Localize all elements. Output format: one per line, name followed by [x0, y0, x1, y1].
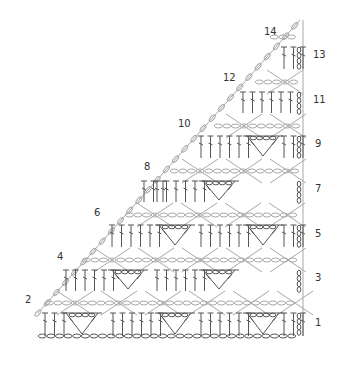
- turning-chain: [297, 103, 301, 109]
- chain-stitch: [235, 301, 243, 305]
- chain-stitch: [162, 225, 168, 229]
- chain-stitch: [143, 213, 151, 217]
- dc-bar: [206, 274, 210, 279]
- shell-leg: [219, 270, 235, 289]
- turning-chain: [297, 92, 301, 98]
- chain-stitch: [248, 169, 256, 173]
- chain-stitch: [134, 258, 142, 262]
- chain-stitch: [80, 301, 88, 305]
- chain-stitch: [278, 301, 286, 305]
- chain-stitch: [223, 124, 231, 128]
- chain-stitch: [243, 301, 251, 305]
- turning-chain: [297, 58, 301, 64]
- shell-leg: [219, 181, 235, 200]
- chain-stitch: [76, 313, 82, 317]
- turning-chain: [297, 98, 301, 104]
- shell-leg: [247, 225, 263, 245]
- chain-stitch: [206, 181, 212, 185]
- chain-stitch: [162, 313, 168, 317]
- chain-stitch: [125, 258, 133, 262]
- chain-stitch: [88, 301, 96, 305]
- chain-stitch: [160, 258, 168, 262]
- chain-stitch: [263, 136, 269, 140]
- chain-stitch: [193, 334, 201, 338]
- turning-chain: [297, 270, 301, 276]
- shell-leg: [263, 225, 279, 245]
- chain-stitch: [182, 313, 188, 317]
- chain-stitch: [232, 124, 240, 128]
- chain-stitch: [128, 270, 134, 274]
- chain-stitch: [280, 258, 288, 262]
- chain-stitch: [219, 181, 225, 185]
- turning-chain: [297, 287, 301, 293]
- chain-stitch: [169, 313, 175, 317]
- chain-stitch: [131, 301, 139, 305]
- row-number-label: 12: [223, 72, 236, 83]
- dc-bar: [137, 274, 141, 279]
- chain-stitch: [91, 258, 99, 262]
- chain-stitch: [182, 225, 188, 229]
- row-number-label: 1: [315, 317, 321, 328]
- shell-leg: [159, 225, 175, 245]
- chain-stitch: [274, 169, 282, 173]
- chain-stitch: [211, 258, 219, 262]
- turning-chain: [297, 136, 301, 142]
- chain-stitch: [142, 334, 150, 338]
- chain-stitch: [175, 225, 181, 229]
- chain-stitch: [188, 169, 196, 173]
- chain-stitch: [64, 334, 72, 338]
- chain-stitch: [192, 301, 200, 305]
- turning-chain: [297, 64, 301, 70]
- chain-stitch: [47, 334, 55, 338]
- chain-stitch: [256, 169, 264, 173]
- chain-stitch: [160, 213, 168, 217]
- turning-chain: [297, 313, 301, 319]
- chain-stitch: [124, 334, 132, 338]
- shell-leg: [247, 136, 263, 156]
- chain-stitch: [262, 334, 270, 338]
- chain-stitch: [290, 80, 298, 84]
- chain-stitch: [220, 213, 228, 217]
- turning-chain: [297, 181, 301, 187]
- chain-stitch: [246, 213, 254, 217]
- chain-stitch: [217, 301, 225, 305]
- chain-stitch: [149, 301, 157, 305]
- turning-chain: [297, 153, 301, 159]
- dc-bar: [91, 317, 95, 322]
- chain-stitch: [73, 334, 81, 338]
- turning-chain: [297, 319, 301, 325]
- turning-chain: [297, 187, 301, 193]
- dc-bar: [228, 274, 232, 279]
- chain-stitch: [270, 225, 276, 229]
- chain-stitch: [202, 334, 210, 338]
- chain-stitch: [122, 270, 128, 274]
- chain-stitch: [99, 334, 107, 338]
- chain-stitch: [206, 270, 212, 274]
- chain-stitch: [263, 225, 269, 229]
- chain-stitch: [176, 334, 184, 338]
- turning-chain: [297, 53, 301, 59]
- dc-bar: [272, 229, 276, 234]
- chain-stitch: [257, 124, 265, 128]
- chain-stitch: [166, 301, 174, 305]
- chain-stitch: [82, 313, 88, 317]
- chain-stitch: [254, 213, 262, 217]
- turning-chain: [297, 231, 301, 237]
- chain-stitch: [291, 169, 299, 173]
- chain-stitch: [292, 124, 300, 128]
- chain-stitch: [81, 334, 89, 338]
- chain-stitch: [263, 213, 271, 217]
- chain-stitch: [219, 270, 225, 274]
- chain-stitch: [288, 334, 296, 338]
- chain-stitch: [266, 124, 274, 128]
- chain-stitch: [115, 270, 121, 274]
- turning-chain: [297, 276, 301, 282]
- row-number-label: 14: [264, 26, 277, 37]
- shell-leg: [203, 181, 219, 200]
- chain-stitch: [140, 301, 148, 305]
- chain-stitch: [257, 313, 263, 317]
- turning-chain: [297, 47, 301, 53]
- turning-chain: [297, 236, 301, 242]
- chain-stitch: [265, 169, 273, 173]
- chain-stitch: [56, 334, 64, 338]
